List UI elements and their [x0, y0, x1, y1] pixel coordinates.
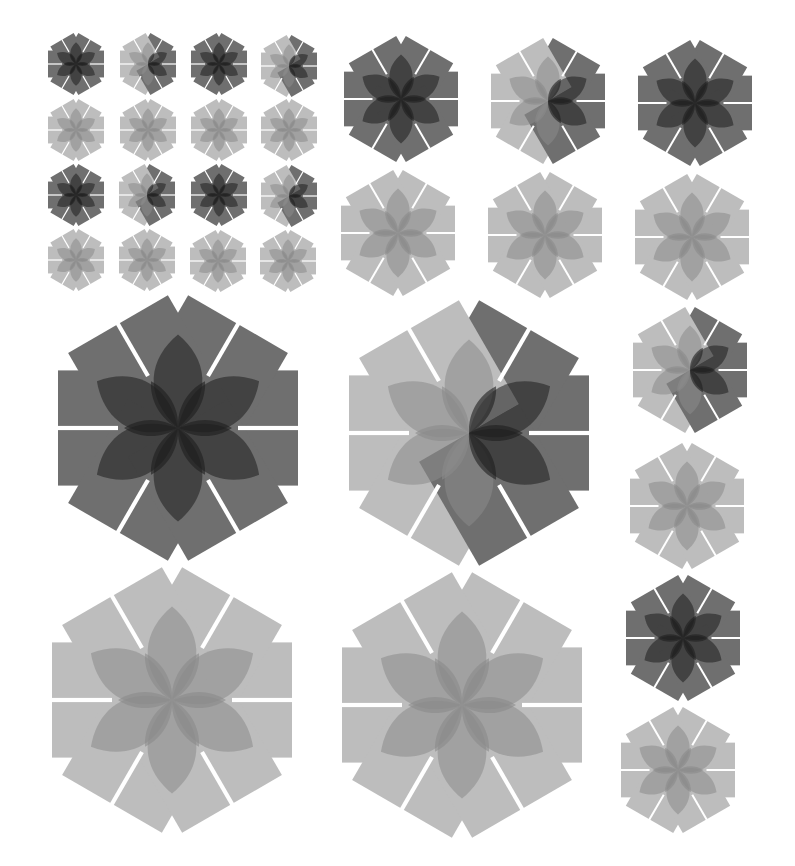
rosette-pattern-canvas: [0, 0, 795, 866]
